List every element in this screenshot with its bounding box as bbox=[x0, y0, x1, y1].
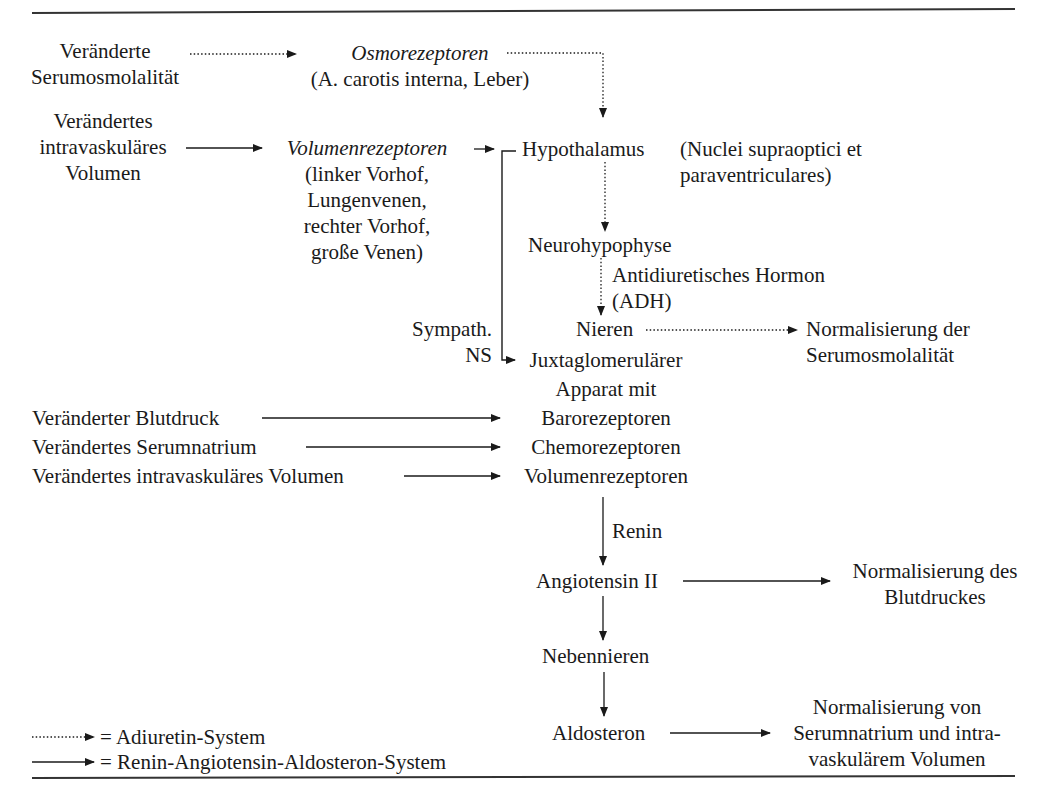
legend-item-raas: = Renin-Angiotensin-Aldosteron-System bbox=[100, 749, 446, 775]
node-line: Blutdruckes bbox=[826, 584, 1044, 610]
node-detail-line: (linker Vorhof, bbox=[260, 161, 474, 187]
node-input-volume-bottom: Verändertes intravaskuläres Volumen bbox=[32, 463, 344, 489]
node-juxtaglomerular-apparatus: Juxtaglomerulärer Apparat mit Barorezept… bbox=[508, 346, 704, 491]
node-adrenals: Nebennieren bbox=[542, 643, 649, 669]
node-input-volume-top: Verändertes intravaskuläres Volumen bbox=[26, 108, 180, 186]
node-title: Volumenrezeptoren bbox=[260, 135, 474, 161]
node-line-volume-receptors: Volumenrezeptoren bbox=[508, 462, 704, 491]
node-norm-bloodpressure: Normalisierung des Blutdruckes bbox=[826, 558, 1044, 610]
node-title: Osmorezeptoren bbox=[300, 40, 540, 66]
node-line: Serumnatrium und intra- bbox=[766, 720, 1028, 746]
diagram-figure: Veränderte Serumosmolalität Osmorezeptor… bbox=[0, 0, 1053, 808]
legend-item-adiuretin: = Adiuretin-System bbox=[100, 724, 265, 750]
label-adh: Antidiuretisches Hormon (ADH) bbox=[612, 262, 825, 314]
node-line: Normalisierung des bbox=[826, 558, 1044, 584]
node-line: Apparat mit bbox=[508, 375, 704, 404]
node-neurohypophysis: Neurohypophyse bbox=[528, 232, 671, 258]
node-osmoreceptors: Osmorezeptoren (A. carotis interna, Lebe… bbox=[300, 40, 540, 92]
node-line: vaskulärem Volumen bbox=[766, 746, 1028, 772]
node-line: Serumosmolalität bbox=[30, 64, 180, 90]
node-title: Hypothalamus bbox=[522, 137, 644, 161]
node-norm-serumosmolality: Normalisierung der Serumosmolalität bbox=[806, 316, 970, 368]
node-hypothalamus: Hypothalamus bbox=[522, 136, 644, 162]
node-line: Volumen bbox=[26, 160, 180, 186]
node-line: Verändertes bbox=[26, 108, 180, 134]
label-sympathetic-ns: Sympath. NS bbox=[392, 316, 492, 368]
node-line-baroreceptors: Barorezeptoren bbox=[508, 404, 704, 433]
node-angiotensin-ii: Angiotensin II bbox=[536, 568, 658, 594]
node-input-bloodpressure: Veränderter Blutdruck bbox=[32, 405, 219, 431]
label-line: Antidiuretisches Hormon bbox=[612, 262, 825, 288]
node-kidneys: Nieren bbox=[576, 316, 633, 342]
node-detail-line: paraventriculares) bbox=[680, 162, 862, 188]
node-detail-line: (Nuclei supraoptici et bbox=[680, 136, 862, 162]
node-line: Juxtaglomerulärer bbox=[508, 346, 704, 375]
node-input-serumsodium: Verändertes Serumnatrium bbox=[32, 434, 257, 460]
node-aldosterone: Aldosteron bbox=[552, 720, 645, 746]
node-norm-sodium-volume: Normalisierung von Serumnatrium und intr… bbox=[766, 694, 1028, 772]
bracket-sympathetic-path bbox=[502, 151, 516, 360]
node-detail-line: Lungenvenen, bbox=[260, 187, 474, 213]
top-rule bbox=[32, 9, 1015, 13]
node-input-serumosmolality: Veränderte Serumosmolalität bbox=[30, 38, 180, 90]
node-line: Veränderte bbox=[30, 38, 180, 64]
node-detail-line: große Venen) bbox=[260, 239, 474, 265]
node-volume-receptors-top: Volumenrezeptoren (linker Vorhof, Lungen… bbox=[260, 135, 474, 265]
bottom-rule bbox=[32, 776, 1015, 778]
node-hypothalamus-detail: (Nuclei supraoptici et paraventriculares… bbox=[680, 136, 862, 188]
node-line: Serumosmolalität bbox=[806, 342, 970, 368]
label-renin: Renin bbox=[612, 518, 662, 544]
node-detail-line: rechter Vorhof, bbox=[260, 213, 474, 239]
node-line: Normalisierung von bbox=[766, 694, 1028, 720]
label-line: NS bbox=[392, 342, 492, 368]
node-detail: (A. carotis interna, Leber) bbox=[300, 66, 540, 92]
node-line: intravaskuläres bbox=[26, 134, 180, 160]
label-line: (ADH) bbox=[612, 288, 825, 314]
node-line-chemoreceptors: Chemorezeptoren bbox=[508, 433, 704, 462]
node-line: Normalisierung der bbox=[806, 316, 970, 342]
label-line: Sympath. bbox=[392, 316, 492, 342]
